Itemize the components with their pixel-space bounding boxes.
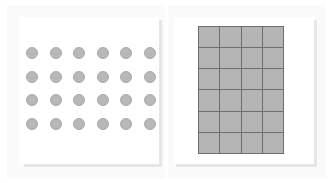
- grid-cell: [242, 90, 262, 110]
- grid-cell: [199, 48, 219, 68]
- grid-cell: [199, 27, 219, 47]
- grid-cell: [220, 69, 240, 89]
- grid-cell: [263, 69, 283, 89]
- dot: [26, 71, 38, 83]
- grid-cell: [199, 133, 219, 153]
- grid-cell: [263, 27, 283, 47]
- grid-cell: [263, 133, 283, 153]
- dot: [144, 71, 156, 83]
- grid-cell: [263, 90, 283, 110]
- dot: [26, 47, 38, 59]
- grid-cell: [220, 112, 240, 132]
- grid-cell: [220, 133, 240, 153]
- dot: [120, 71, 132, 83]
- dot: [144, 118, 156, 130]
- dot: [50, 47, 62, 59]
- dot: [50, 94, 62, 106]
- dot: [120, 47, 132, 59]
- grid-cell: [263, 112, 283, 132]
- dot: [97, 118, 109, 130]
- grid-cell: [242, 27, 262, 47]
- grid-cell: [263, 48, 283, 68]
- dot: [73, 94, 85, 106]
- dot: [50, 71, 62, 83]
- dot: [144, 47, 156, 59]
- dot: [73, 118, 85, 130]
- grid-cell: [199, 69, 219, 89]
- grid-cell: [199, 90, 219, 110]
- grid-cell: [242, 69, 262, 89]
- grid-cell: [220, 90, 240, 110]
- dot: [97, 71, 109, 83]
- grid-cell: [199, 112, 219, 132]
- grid-cell: [220, 27, 240, 47]
- grid-cell: [242, 133, 262, 153]
- dot-array-panel: [7, 5, 165, 178]
- dot: [73, 47, 85, 59]
- dot: [97, 94, 109, 106]
- dot: [97, 47, 109, 59]
- dot: [26, 118, 38, 130]
- dot: [50, 118, 62, 130]
- grid-cell: [242, 48, 262, 68]
- grid-panel: [168, 5, 326, 178]
- dot: [144, 94, 156, 106]
- dot: [120, 94, 132, 106]
- dot: [120, 118, 132, 130]
- grid-cell: [242, 112, 262, 132]
- dot: [73, 71, 85, 83]
- dot: [26, 94, 38, 106]
- square-grid: [198, 26, 284, 154]
- grid-cell: [220, 48, 240, 68]
